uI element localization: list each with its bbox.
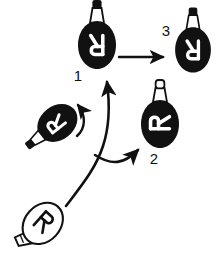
step-label-2: 2 [150,150,158,167]
figure-canvas: 1 2 3 [0,0,222,262]
bulb-three-neck [186,8,199,30]
step-label-3: 3 [162,22,170,39]
step-label-1: 1 [74,67,82,84]
bulb-two-neck [153,80,167,102]
solid-bulb-upright-one [78,0,116,69]
diagram-svg: 1 2 3 [0,0,222,262]
curved-arrow-to-bulb-one [66,82,109,206]
outlined-bulb-source [7,195,71,260]
solid-bulb-upright-three [175,8,211,73]
bulb-one-neck [90,0,104,23]
tilted-solid-bulb-rotating [16,96,85,160]
solid-bulb-upright-two [141,80,179,148]
curved-rotation-arrow [77,105,84,136]
